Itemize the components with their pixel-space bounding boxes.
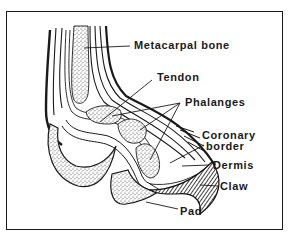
label-claw: Claw [220, 181, 248, 192]
label-border: border [206, 141, 244, 152]
metacarpal-bone [72, 26, 89, 103]
claw-anatomy-diagram [0, 0, 293, 238]
label-tendon: Tendon [157, 72, 200, 83]
label-metacarpal-bone: Metacarpal bone [134, 40, 230, 51]
pad-large [48, 124, 116, 187]
label-phalanges: Phalanges [185, 97, 245, 108]
label-pad: Pad [180, 206, 202, 217]
label-dermis: Dermis [213, 160, 254, 171]
